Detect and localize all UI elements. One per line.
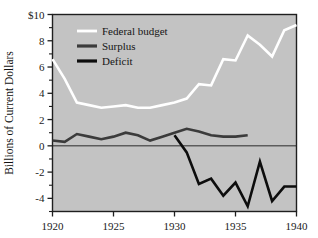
x-tick-label-4: 1940 — [286, 220, 309, 232]
y-axis-title: Billions of Current Dollars — [3, 51, 15, 175]
y-tick-label-3: 4 — [39, 87, 45, 99]
budget-surplus-deficit-line-chart: $1086420-2-4 19201925193019351940 Federa… — [0, 0, 318, 238]
legend-label-surplus: Surplus — [102, 40, 136, 52]
x-tick-label-3: 1935 — [225, 220, 248, 232]
legend-label-federal-budget: Federal budget — [102, 25, 168, 37]
y-tick-label-1: 8 — [39, 35, 45, 47]
y-tick-label-5: 0 — [39, 140, 45, 152]
y-tick-label-4: 2 — [39, 114, 45, 126]
y-tick-label-0: $10 — [28, 9, 45, 21]
y-tick-label-6: -2 — [35, 166, 44, 178]
x-tick-label-2: 1930 — [164, 220, 187, 232]
y-tick-label-7: -4 — [35, 192, 45, 204]
y-tick-label-2: 6 — [39, 61, 45, 73]
x-tick-label-1: 1925 — [103, 220, 126, 232]
legend-label-deficit: Deficit — [102, 55, 133, 67]
x-tick-label-0: 1920 — [42, 220, 65, 232]
chart-figure: $1086420-2-4 19201925193019351940 Federa… — [0, 0, 318, 238]
